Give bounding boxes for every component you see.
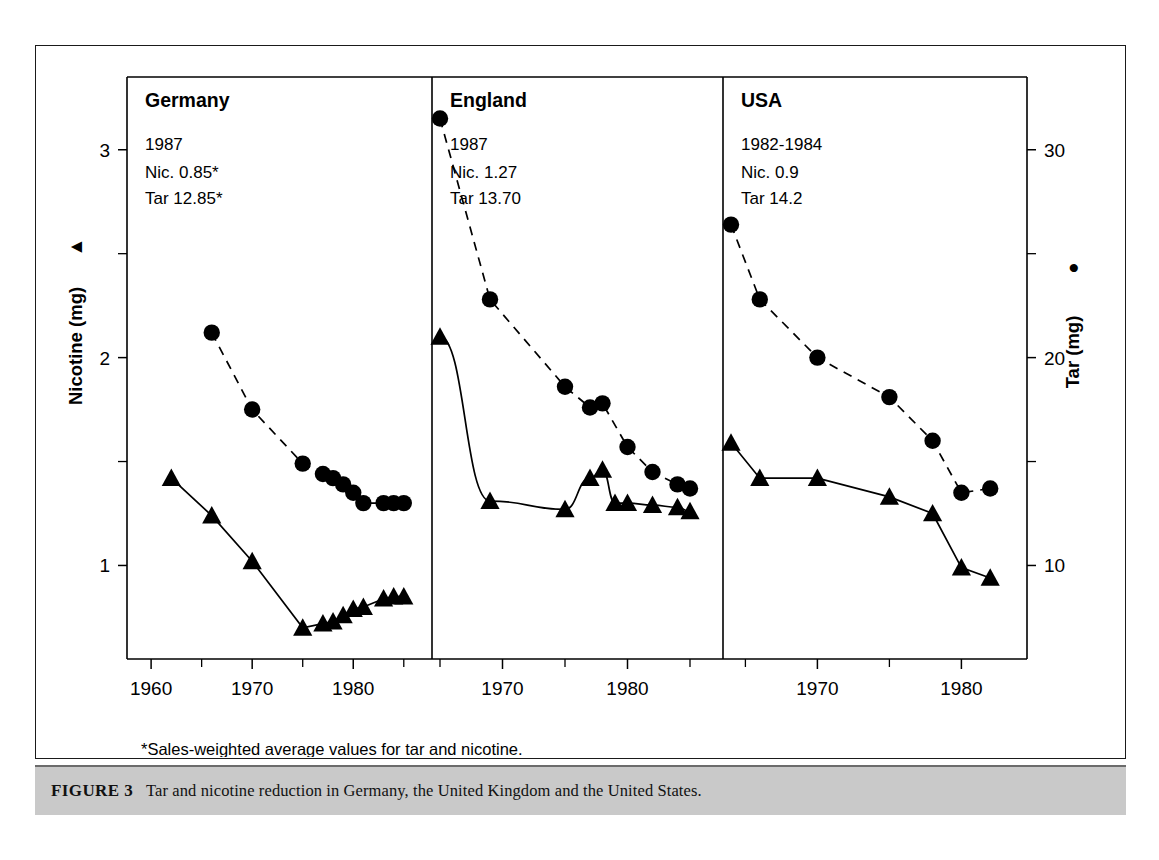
- panel-nicotine-germany: Nic. 0.85*: [145, 163, 219, 182]
- data-point-usa-nicotine: [808, 469, 827, 486]
- figure-frame: 123102030Nicotine (mg)▲Tar (mg)●19601970…: [35, 45, 1126, 759]
- x-axis-tick-label: 1970: [796, 678, 838, 699]
- panel-tar-germany: Tar 12.85*: [145, 189, 223, 208]
- right-axis-title: Tar (mg): [1062, 316, 1083, 389]
- data-point-england-tar: [682, 480, 698, 496]
- series-line-usa-tar: [731, 225, 990, 493]
- data-point-england-nicotine: [430, 327, 449, 344]
- data-point-usa-tar: [881, 389, 897, 405]
- left-axis-tick-label: 1: [99, 555, 110, 576]
- series-line-england-nicotine: [440, 337, 690, 512]
- figure-caption-number: FIGURE 3: [51, 781, 133, 800]
- figure-caption: FIGURE 3Tar and nicotine reduction in Ge…: [35, 781, 702, 801]
- data-point-england-nicotine: [618, 494, 637, 511]
- data-point-england-nicotine: [480, 491, 499, 508]
- panel-title-usa: USA: [741, 89, 782, 111]
- data-point-england-tar: [482, 291, 498, 307]
- data-point-usa-nicotine: [880, 487, 899, 504]
- data-point-usa-tar: [953, 485, 969, 501]
- x-axis-tick-label: 1980: [606, 678, 648, 699]
- figure-caption-bar: FIGURE 3Tar and nicotine reduction in Ge…: [35, 765, 1126, 815]
- data-point-germany-tar: [355, 495, 371, 511]
- data-point-england-tar: [644, 464, 660, 480]
- figure-caption-text: Tar and nicotine reduction in Germany, t…: [146, 781, 702, 800]
- data-point-england-nicotine: [593, 460, 612, 477]
- nicotine-triangle-icon: ▲: [65, 238, 86, 257]
- panel-tar-usa: Tar 14.2: [741, 189, 802, 208]
- left-axis-tick-label: 3: [99, 140, 110, 161]
- data-point-usa-nicotine: [981, 568, 1000, 585]
- data-point-england-tar: [432, 110, 448, 126]
- x-axis-tick-label: 1960: [130, 678, 172, 699]
- data-point-germany-nicotine: [162, 469, 181, 486]
- panel-year-usa: 1982-1984: [741, 135, 822, 154]
- figure-page: 123102030Nicotine (mg)▲Tar (mg)●19601970…: [0, 0, 1159, 860]
- data-point-usa-tar: [723, 216, 739, 232]
- series-line-germany-tar: [212, 333, 404, 503]
- panel-year-germany: 1987: [145, 135, 183, 154]
- panel-tar-england: Tar 13.70: [450, 189, 521, 208]
- data-point-usa-nicotine: [923, 504, 942, 521]
- data-point-usa-tar: [982, 480, 998, 496]
- data-point-germany-tar: [204, 324, 220, 340]
- footnote-text: *Sales-weighted average values for tar a…: [141, 740, 523, 757]
- data-point-usa-tar: [809, 349, 825, 365]
- panel-year-england: 1987: [450, 135, 488, 154]
- panel-title-germany: Germany: [145, 89, 230, 111]
- chart-canvas: 123102030Nicotine (mg)▲Tar (mg)●19601970…: [36, 46, 1124, 757]
- panel-title-england: England: [450, 89, 527, 111]
- x-axis-tick-label: 1980: [940, 678, 982, 699]
- data-point-usa-nicotine: [952, 558, 971, 575]
- data-point-england-tar: [619, 439, 635, 455]
- data-point-england-tar: [557, 379, 573, 395]
- x-axis-tick-label: 1980: [332, 678, 374, 699]
- right-axis-tick-label: 30: [1044, 140, 1065, 161]
- data-point-england-tar: [594, 395, 610, 411]
- data-point-germany-tar: [244, 401, 260, 417]
- tar-circle-icon: ●: [1062, 262, 1083, 273]
- data-point-usa-nicotine: [721, 433, 740, 450]
- x-axis-tick-label: 1970: [231, 678, 273, 699]
- x-axis-tick-label: 1970: [481, 678, 523, 699]
- panel-nicotine-england: Nic. 1.27: [450, 163, 517, 182]
- left-axis-tick-label: 2: [99, 348, 110, 369]
- data-point-usa-tar: [752, 291, 768, 307]
- data-point-germany-tar: [396, 495, 412, 511]
- right-axis-tick-label: 10: [1044, 555, 1065, 576]
- series-line-usa-nicotine: [731, 443, 990, 578]
- data-point-germany-tar: [295, 455, 311, 471]
- panel-nicotine-usa: Nic. 0.9: [741, 163, 799, 182]
- left-axis-title: Nicotine (mg): [65, 287, 86, 405]
- data-point-usa-tar: [924, 433, 940, 449]
